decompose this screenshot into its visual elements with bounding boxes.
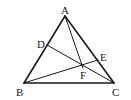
label-F: F: [80, 69, 86, 81]
labels: A B C D E F: [16, 4, 119, 98]
label-A: A: [61, 4, 69, 16]
label-D: D: [37, 38, 45, 50]
segment-AC: [65, 16, 114, 83]
triangle-diagram: A B C D E F: [0, 0, 131, 100]
label-B: B: [16, 86, 23, 98]
label-C: C: [112, 86, 119, 98]
label-E: E: [100, 51, 107, 63]
